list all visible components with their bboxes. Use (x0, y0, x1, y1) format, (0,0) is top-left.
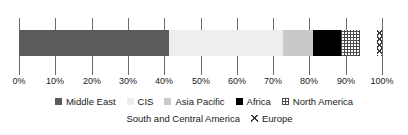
stacked-bar-chart: 0%10%20%30%40%50%60%70%80%90%100% Middle… (0, 0, 408, 135)
x-tick-10pct (55, 68, 56, 75)
legend-item-north-america: North America (282, 96, 353, 108)
x-tick-label-90pct: 90% (337, 75, 355, 87)
x-tick-label-60pct: 60% (228, 75, 246, 87)
bar-segment-north-america (341, 30, 360, 56)
x-tick-20pct (92, 68, 93, 75)
bar-segment-africa (313, 30, 341, 56)
x-tick-label-20pct: 20% (83, 75, 101, 87)
legend-label: Europe (262, 113, 293, 125)
legend-item-asia-pacific: Asia Pacific (164, 96, 224, 108)
x-tick-70pct (273, 68, 274, 75)
legend-swatch-south-and-central-america-icon (115, 115, 122, 122)
x-tick-40pct (164, 68, 165, 75)
x-tick-label-10pct: 10% (46, 75, 64, 87)
legend-label: Asia Pacific (175, 96, 224, 108)
x-tick-label-100pct: 100% (370, 75, 393, 87)
legend-label: South and Central America (126, 113, 240, 125)
legend-item-africa: Africa (236, 96, 271, 108)
legend-swatch-europe-icon (251, 115, 258, 122)
legend-item-middle-east: Middle East (55, 96, 116, 108)
legend-swatch-cis-icon (127, 98, 134, 105)
x-tick-label-80pct: 80% (300, 75, 318, 87)
x-tick-label-0pct: 0% (12, 75, 25, 87)
gridline-100pct (382, 18, 383, 68)
x-tick-label-40pct: 40% (155, 75, 173, 87)
legend-item-cis: CIS (127, 96, 154, 108)
x-tick-80pct (309, 68, 310, 75)
legend-item-south-and-central-america: South and Central America (115, 113, 240, 125)
legend-label: Africa (247, 96, 271, 108)
plot-area (19, 18, 382, 68)
chart-legend: Middle EastCISAsia PacificAfricaNorth Am… (0, 93, 408, 127)
x-tick-90pct (346, 68, 347, 75)
bar-segment-middle-east (19, 30, 169, 56)
x-tick-0pct (19, 68, 20, 75)
legend-swatch-middle-east-icon (55, 98, 62, 105)
legend-label: CIS (138, 96, 154, 108)
x-tick-50pct (201, 68, 202, 75)
x-tick-60pct (237, 68, 238, 75)
stacked-bar (19, 30, 382, 56)
x-tick-30pct (128, 68, 129, 75)
legend-label: North America (293, 96, 353, 108)
bar-segment-asia-pacific (283, 30, 313, 56)
legend-item-europe: Europe (251, 113, 293, 125)
x-tick-100pct (382, 68, 383, 75)
x-axis: 0%10%20%30%40%50%60%70%80%90%100% (19, 68, 382, 90)
legend-row-primary: Middle EastCISAsia PacificAfricaNorth Am… (0, 93, 408, 110)
x-tick-label-50pct: 50% (192, 75, 210, 87)
x-tick-label-70pct: 70% (264, 75, 282, 87)
x-tick-label-30pct: 30% (119, 75, 137, 87)
bar-segment-cis (169, 30, 283, 56)
bar-segment-south-and-central-america (360, 30, 377, 56)
legend-swatch-asia-pacific-icon (164, 98, 171, 105)
legend-swatch-africa-icon (236, 98, 243, 105)
legend-label: Middle East (66, 96, 116, 108)
bar-segment-europe (377, 30, 382, 56)
legend-row-secondary: South and Central AmericaEurope (0, 110, 408, 127)
legend-swatch-north-america-icon (282, 98, 289, 105)
